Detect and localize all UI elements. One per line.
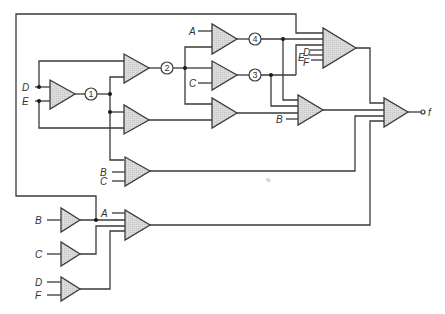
gate-final — [384, 98, 408, 127]
scan-artifact: % — [266, 177, 271, 183]
gate-big — [323, 28, 356, 68]
node-4: 4 — [249, 33, 261, 45]
svg-text:C: C — [35, 249, 43, 260]
svg-text:C: C — [189, 78, 197, 89]
svg-text:4: 4 — [252, 34, 257, 44]
gate-middle-b — [298, 95, 323, 125]
svg-text:3: 3 — [252, 70, 257, 80]
gate-df — [61, 277, 80, 301]
gate-4 — [212, 24, 237, 54]
buffer-b — [61, 208, 80, 232]
svg-text:A: A — [188, 26, 196, 37]
buffer-c — [61, 242, 80, 266]
gate-bc — [125, 157, 150, 186]
node-3: 3 — [249, 69, 261, 81]
gate-1 — [50, 80, 75, 109]
svg-text:F: F — [35, 290, 42, 301]
gate-c — [212, 61, 237, 90]
svg-text:D: D — [35, 277, 42, 288]
junctions — [37, 37, 285, 222]
svg-text:E: E — [22, 96, 29, 107]
gate-2 — [124, 54, 149, 83]
svg-text:A: A — [100, 208, 108, 219]
gate-bottom-main — [125, 210, 150, 240]
svg-text:2: 2 — [164, 63, 169, 73]
output-terminal — [421, 110, 425, 114]
gate-3 — [124, 105, 149, 134]
svg-text:1: 1 — [88, 89, 93, 99]
svg-text:F: F — [303, 57, 310, 68]
node-1: 1 — [85, 88, 97, 100]
output-label: f — [428, 107, 432, 118]
svg-text:C: C — [100, 176, 108, 187]
svg-text:B: B — [276, 114, 283, 125]
gate-mid-top — [212, 98, 237, 128]
node-2: 2 — [161, 62, 173, 74]
logic-circuit-diagram: 1 2 4 3 f D E A C D E F B B C A B C D F … — [0, 0, 445, 314]
svg-text:D: D — [22, 82, 29, 93]
gates — [50, 24, 408, 301]
svg-text:B: B — [35, 215, 42, 226]
